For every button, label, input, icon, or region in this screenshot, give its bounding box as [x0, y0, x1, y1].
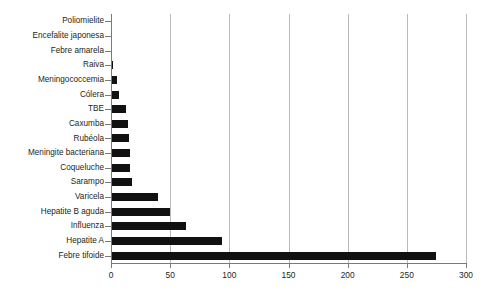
y-axis-label: Rubéola: [0, 134, 104, 143]
bar-row: [111, 58, 466, 73]
y-axis-label: Influenza: [0, 221, 104, 230]
bar-row: [111, 29, 466, 44]
y-axis-label: Febre tifoide: [0, 251, 104, 260]
bar-row: [111, 14, 466, 29]
y-axis-label: Coqueluche: [0, 163, 104, 172]
x-axis-tick-150: [289, 263, 290, 268]
y-axis-label: Varicela: [0, 192, 104, 201]
gridline-300: [466, 14, 467, 263]
bar-varicela: [111, 193, 158, 201]
bar-row: [111, 204, 466, 219]
bar-cólera: [111, 91, 119, 99]
bar-rubéola: [111, 134, 129, 142]
bar-row: [111, 190, 466, 205]
x-axis-label: 0: [91, 270, 131, 280]
bar-chart: PoliomieliteEncefalite japonesaFebre ama…: [0, 0, 491, 299]
x-axis-label: 100: [209, 270, 249, 280]
bar-caxumba: [111, 120, 128, 128]
y-axis-label: Poliomielite: [0, 16, 104, 25]
bar-row: [111, 175, 466, 190]
bar-tbe: [111, 105, 126, 113]
y-axis-label: Caxumba: [0, 119, 104, 128]
bar-rows: [111, 14, 466, 263]
bar-row: [111, 219, 466, 234]
plot-area: [111, 14, 466, 263]
x-axis-tick-200: [348, 263, 349, 268]
bar-row: [111, 43, 466, 58]
x-axis-tick-0: [111, 263, 112, 268]
bar-row: [111, 73, 466, 88]
bar-hepatite-b-aguda: [111, 208, 170, 216]
bar-influenza: [111, 222, 186, 230]
y-axis-label: Meningite bacteriana: [0, 148, 104, 157]
bar-coqueluche: [111, 164, 130, 172]
x-axis-tick-100: [229, 263, 230, 268]
y-axis-label: TBE: [0, 104, 104, 113]
x-axis-tick-300: [466, 263, 467, 268]
y-axis-label: Hepatite A: [0, 236, 104, 245]
bar-row: [111, 117, 466, 132]
bar-sarampo: [111, 178, 132, 186]
bar-hepatite-a: [111, 237, 222, 245]
bar-row: [111, 234, 466, 249]
x-axis-label: 250: [387, 270, 427, 280]
x-axis-tick-50: [170, 263, 171, 268]
bar-row: [111, 131, 466, 146]
y-axis-label: Encefalite japonesa: [0, 31, 104, 40]
bar-row: [111, 87, 466, 102]
y-axis-line: [111, 14, 112, 264]
bar-row: [111, 146, 466, 161]
y-axis-label: Febre amarela: [0, 46, 104, 55]
y-axis-label: Sarampo: [0, 177, 104, 186]
y-axis-labels: PoliomieliteEncefalite japonesaFebre ama…: [0, 14, 104, 263]
x-axis-label: 300: [446, 270, 486, 280]
x-axis-label: 200: [328, 270, 368, 280]
bar-row: [111, 248, 466, 263]
bar-row: [111, 102, 466, 117]
bar-febre-tifoide: [111, 252, 436, 260]
y-axis-label: Raiva: [0, 60, 104, 69]
y-axis-label: Cólera: [0, 90, 104, 99]
x-axis-label: 50: [150, 270, 190, 280]
x-axis-label: 150: [269, 270, 309, 280]
y-axis-label: Hepatite B aguda: [0, 207, 104, 216]
bar-row: [111, 160, 466, 175]
bar-meningite-bacteriana: [111, 149, 130, 157]
y-axis-label: Meningococcemia: [0, 75, 104, 84]
x-axis-tick-250: [407, 263, 408, 268]
